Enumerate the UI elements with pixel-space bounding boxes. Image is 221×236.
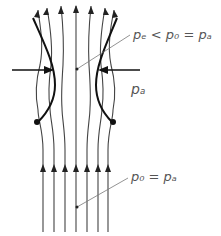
right-edge-dot bbox=[110, 119, 116, 125]
throat-pressure-label: pₑ < p₀ = pₐ bbox=[133, 28, 212, 41]
ambient-pressure-label: pₐ bbox=[131, 82, 145, 96]
inlet-pressure-label: p₀ = pₐ bbox=[131, 170, 177, 183]
left-edge-dot bbox=[34, 119, 40, 125]
inlet-streamlines bbox=[36, 6, 114, 232]
